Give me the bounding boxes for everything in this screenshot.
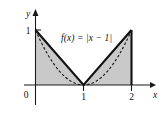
x-axis-arrow: [150, 82, 156, 88]
y-axis-arrow: [33, 9, 39, 16]
x-axis-label: x: [152, 90, 158, 100]
x-tick-label-2: 2: [129, 92, 134, 102]
y-tick-label-1: 1: [26, 26, 31, 36]
function-formula-label: f(x) = |x − 1|: [61, 33, 112, 43]
function-plot: 0 1 2 1 x y: [0, 0, 168, 115]
figure-container: 0 1 2 1 x y f(x) = |x − 1|: [0, 0, 168, 115]
y-axis-label: y: [25, 9, 31, 19]
origin-label: 0: [24, 90, 29, 100]
x-tick-label-1: 1: [81, 92, 86, 102]
